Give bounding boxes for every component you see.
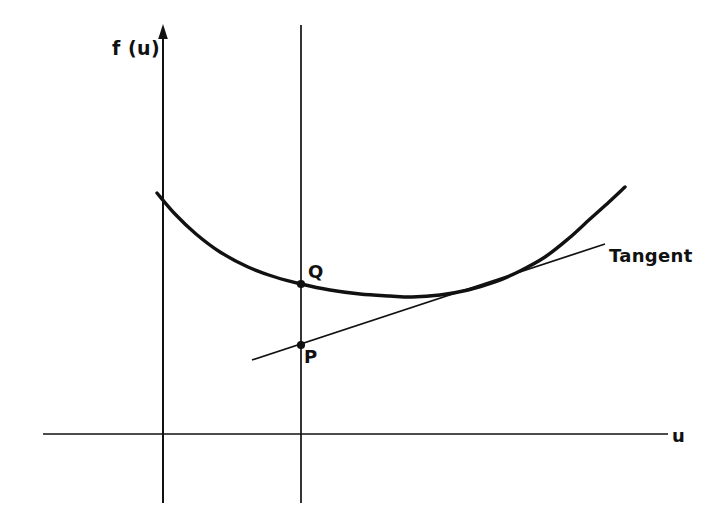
y-axis-label: f (u) [112, 39, 160, 58]
diagram-canvas [0, 0, 715, 528]
tangent-label: Tangent [609, 247, 693, 265]
tangent-line-diagram: f (u) u Q P Tangent [0, 0, 715, 528]
x-axis-label: u [672, 427, 685, 445]
point-p-label: P [304, 348, 317, 366]
function-curve [157, 187, 625, 297]
point-q-marker [297, 280, 305, 288]
tangent-line [252, 244, 605, 360]
point-q-label: Q [308, 263, 323, 281]
